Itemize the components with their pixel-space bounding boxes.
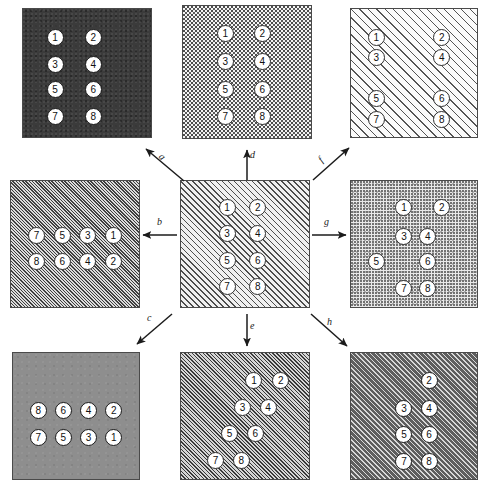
arrow-g: g	[310, 228, 352, 244]
node-7: 7	[219, 278, 236, 295]
arrow-e: e	[241, 312, 257, 352]
panel-top-middle: 12345678	[182, 5, 312, 139]
node-5: 5	[217, 81, 234, 98]
node-2: 2	[433, 29, 450, 46]
panel-center-reference: 12345678	[180, 180, 310, 308]
node-4: 4	[254, 53, 271, 70]
node-4: 4	[85, 56, 102, 73]
node-5: 5	[55, 429, 72, 446]
node-3: 3	[80, 429, 97, 446]
arrow-label-h: h	[327, 316, 332, 327]
node-1: 1	[219, 199, 236, 216]
node-4: 4	[260, 399, 277, 416]
panel-bottom-right: 2345678	[350, 352, 478, 480]
node-7: 7	[30, 429, 47, 446]
node-7: 7	[368, 111, 385, 128]
node-6: 6	[254, 81, 271, 98]
panel-top-left: 12345678	[22, 8, 152, 138]
node-5: 5	[368, 90, 385, 107]
panel-fill-hatch-tight	[11, 181, 139, 307]
node-6: 6	[247, 425, 264, 442]
node-7: 7	[28, 227, 45, 244]
node-3: 3	[79, 227, 96, 244]
node-2: 2	[105, 253, 122, 270]
arrow-f: f	[305, 140, 357, 184]
node-8: 8	[233, 452, 250, 469]
node-3: 3	[47, 56, 64, 73]
node-7: 7	[217, 108, 234, 125]
panel-bottom-middle: 12345678	[180, 352, 310, 480]
panel-fill-hatch-mid	[181, 181, 309, 307]
arrow-label-g: g	[324, 216, 329, 227]
panel-fill-hatch-dark	[351, 353, 477, 479]
node-2: 2	[85, 29, 102, 46]
node-6: 6	[85, 81, 102, 98]
node-2: 2	[254, 25, 271, 42]
node-8: 8	[85, 108, 102, 125]
figure-canvas: 12345678 12345678 12345678 75318642 1234…	[0, 0, 487, 490]
node-4: 4	[421, 400, 438, 417]
node-3: 3	[217, 53, 234, 70]
arrow-label-b: b	[157, 216, 162, 227]
arrow-label-c: c	[147, 312, 151, 323]
node-3: 3	[234, 399, 251, 416]
node-8: 8	[421, 453, 438, 470]
panel-middle-left: 75318642	[10, 180, 140, 308]
node-6: 6	[421, 426, 438, 443]
node-3: 3	[368, 49, 385, 66]
node-5: 5	[54, 227, 71, 244]
panel-top-right: 12345678	[350, 8, 478, 138]
node-7: 7	[47, 108, 64, 125]
arrow-label-e: e	[250, 320, 254, 331]
node-1: 1	[217, 25, 234, 42]
arrow-b: b	[137, 228, 179, 244]
arrow-a: a	[138, 143, 188, 185]
panel-fill-dither-light	[183, 6, 311, 138]
node-1: 1	[105, 227, 122, 244]
node-5: 5	[219, 252, 236, 269]
node-3: 3	[219, 225, 236, 242]
panel-fill-dither-fine	[351, 181, 477, 307]
arrow-d: d	[241, 144, 257, 182]
arrow-h: h	[305, 310, 357, 354]
node-2: 2	[421, 372, 438, 389]
node-7: 7	[395, 280, 412, 297]
node-5: 5	[368, 253, 385, 270]
panel-bottom-left: 86427531	[12, 352, 140, 480]
node-8: 8	[419, 280, 436, 297]
node-8: 8	[433, 111, 450, 128]
node-1: 1	[368, 29, 385, 46]
node-6: 6	[54, 253, 71, 270]
arrow-label-d: d	[250, 149, 255, 160]
panel-middle-right: 12345678	[350, 180, 478, 308]
node-7: 7	[207, 452, 224, 469]
arrow-c: c	[128, 310, 178, 352]
node-5: 5	[47, 81, 64, 98]
node-1: 1	[47, 29, 64, 46]
